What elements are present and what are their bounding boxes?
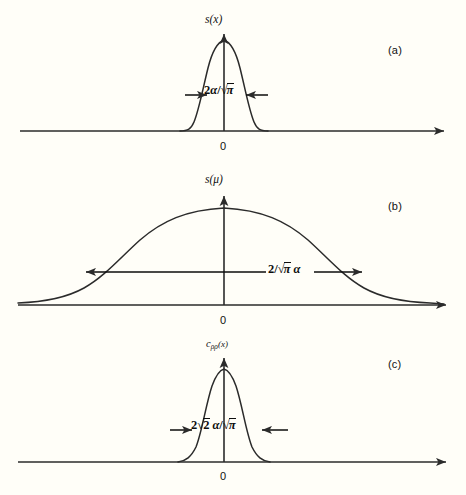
panel-b-origin-text: 0 — [220, 314, 226, 326]
panel-a-width-label: 2α/√π — [204, 83, 234, 98]
panel-tag-a-text: (a) — [388, 44, 402, 56]
panel-b-graph — [18, 196, 446, 305]
panel-a-y-axis-label-text: s(x) — [205, 13, 222, 25]
panel-c-origin-text: 0 — [220, 470, 226, 482]
panel-c-origin-label: 0 — [220, 470, 226, 482]
panel-c-width-label: 2√2α/√π — [191, 418, 236, 433]
panel-c-y-axis-label: cρρ(x) — [206, 338, 228, 351]
panel-tag-c: (c) — [388, 358, 401, 370]
figure-container: s(x) 2α/√π 0 (a) s(μ) 2/√πα 0 (b) cρρ(x)… — [0, 0, 466, 495]
panel-b-width-label: 2/√πα — [268, 262, 300, 277]
panel-tag-b: (b) — [388, 200, 402, 212]
panel-tag-b-text: (b) — [388, 200, 402, 212]
panel-c-graph — [18, 358, 446, 462]
panel-tag-a: (a) — [388, 44, 402, 56]
panel-a-origin-label: 0 — [220, 140, 226, 152]
panel-b-origin-label: 0 — [220, 314, 226, 326]
panel-tag-c-text: (c) — [388, 358, 401, 370]
panel-b-curve — [18, 208, 444, 304]
panel-c-y-axis-arg: (x) — [218, 339, 228, 349]
panel-c-width-radicand-2: π — [229, 418, 237, 432]
panel-c-y-axis-subscript: ρρ — [211, 342, 218, 351]
panel-a-width-radicand: π — [227, 83, 235, 97]
panel-b-width-radicand: π — [284, 262, 292, 276]
panel-a-y-axis-label: s(x) — [205, 13, 222, 25]
panel-b-width-symbol: α — [293, 262, 300, 276]
panel-a-origin-text: 0 — [220, 140, 226, 152]
panel-c-width-radicand-1: 2 — [203, 418, 210, 432]
panel-b-y-axis-label-text: s(μ) — [205, 173, 223, 185]
panel-b-y-axis-label: s(μ) — [205, 173, 223, 185]
